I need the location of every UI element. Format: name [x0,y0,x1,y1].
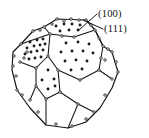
atom-dot-right-face-111-7 [64,60,67,63]
vertex-marker-10 [49,33,52,36]
atom-dot-bottom-center-face-100-4 [54,85,57,88]
atom-dot-top-face-100-1 [63,23,66,26]
figure-canvas: (100) (111) [0,0,149,138]
vertex-marker-27 [16,89,19,92]
atom-dot-right-face-111-9 [86,60,89,63]
facet-label-111: (111) [104,24,127,35]
atom-dot-right-face-111-10 [70,69,73,72]
atom-dot-upper-left-face-111-10 [42,49,45,52]
vertex-marker-5 [102,45,105,48]
vertex-marker-34 [63,20,66,23]
vertex-marker-30 [104,59,107,62]
atom-dot-right-face-111-5 [82,50,85,53]
vertex-marker-41 [15,75,18,78]
vertex-marker-18 [79,79,82,82]
vertex-marker-26 [111,78,114,81]
atom-dot-upper-left-face-111-11 [28,58,31,61]
vertex-marker-33 [51,23,54,26]
vertex-marker-25 [93,111,96,114]
vertex-marker-46 [85,118,88,121]
atom-dot-bottom-center-face-100-3 [47,88,50,91]
atom-dot-upper-left-face-111-12 [34,57,37,60]
atom-dot-right-face-111-11 [81,68,84,71]
vertex-marker-9 [32,30,35,33]
vertex-marker-2 [70,18,73,21]
vertex-marker-23 [59,91,62,94]
atom-dot-top-face-100-2 [71,23,74,26]
atom-dot-bottom-center-face-100-0 [47,69,50,72]
vertex-marker-12 [73,36,76,39]
vertex-marker-45 [71,125,74,128]
vertex-marker-19 [98,69,101,72]
atom-dot-right-face-111-3 [60,51,63,54]
facet-label-100: (100) [98,9,122,20]
atom-dot-upper-left-face-111-8 [30,51,33,54]
vertex-marker-15 [12,65,15,68]
atom-dot-right-face-111-0 [65,42,68,45]
vertex-marker-29 [23,57,26,60]
vertex-marker-44 [55,123,58,126]
vertex-marker-31 [100,57,103,60]
vertex-marker-4 [94,29,97,32]
atom-dot-bottom-center-face-100-2 [53,78,56,81]
atom-dot-upper-left-face-111-9 [36,50,39,53]
vertex-marker-37 [98,37,101,40]
atom-dot-upper-left-face-111-5 [39,44,42,47]
vertex-marker-1 [56,18,59,21]
atom-dot-right-face-111-6 [92,52,95,55]
atom-dot-right-face-111-2 [88,43,91,46]
vertex-marker-6 [111,51,114,54]
vertex-marker-43 [37,111,40,114]
vertex-marker-7 [117,71,120,74]
atom-dot-right-face-111-1 [77,41,80,44]
polyhedron-diagram [0,0,149,138]
atom-dot-upper-left-face-111-4 [33,45,36,48]
atom-dot-right-face-111-8 [75,59,78,62]
vertex-marker-32 [39,29,42,32]
atom-dot-upper-left-face-111-3 [26,47,29,50]
atom-dot-top-face-100-5 [68,29,71,32]
atom-dot-top-face-100-0 [55,25,58,28]
atom-dot-upper-left-face-111-6 [44,43,47,46]
atom-dot-right-face-111-4 [71,50,74,53]
vertex-marker-21 [29,99,32,102]
atom-dot-top-face-100-3 [79,24,82,27]
vertex-marker-47 [104,94,107,97]
vertex-marker-35 [78,19,81,22]
vertex-marker-22 [45,98,48,101]
vertex-marker-24 [77,103,80,106]
atom-dot-upper-left-face-111-13 [40,56,43,59]
atom-dot-upper-left-face-111-2 [42,38,45,41]
vertex-marker-42 [21,94,24,97]
vertex-marker-11 [61,35,64,38]
atom-dot-bottom-center-face-100-1 [41,79,44,82]
vertex-marker-17 [57,69,60,72]
atom-dot-upper-left-face-111-1 [36,39,39,42]
atom-dot-top-face-100-4 [59,30,62,33]
vertex-marker-8 [20,43,23,46]
vertex-marker-38 [107,48,110,51]
vertex-marker-14 [19,61,22,64]
vertex-marker-39 [115,61,118,64]
vertex-marker-28 [26,51,29,54]
vertex-marker-20 [35,85,38,88]
vertex-marker-40 [13,55,16,58]
vertex-marker-13 [47,55,50,58]
vertex-marker-16 [35,67,38,70]
atom-dot-upper-left-face-111-0 [29,41,32,44]
vertex-marker-0 [43,26,46,29]
